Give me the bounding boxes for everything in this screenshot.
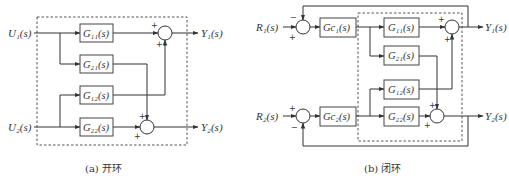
open-loop-diagram: U₁(s) U₂(s) G₁₁(s) G₂₁(s) G₁₂(s) G₂₂(s) … — [8, 17, 223, 174]
input-r1-label: R₁(s) — [255, 21, 278, 34]
error-sum-2 — [296, 109, 310, 123]
input-r2-label: R₂(s) — [255, 110, 278, 123]
sum2-sign-left: + — [424, 121, 431, 130]
caption-closed-loop: (b) 闭环 — [364, 162, 401, 174]
error-sum-1 — [296, 20, 310, 34]
sum1-sign-top: + — [438, 15, 445, 24]
sum-junction-y2 — [140, 120, 154, 134]
block-g21-label: G₂₁(s) — [388, 50, 414, 62]
output-y2-label: Y₂(s) — [485, 110, 507, 123]
sum-junction-y2 — [430, 109, 444, 123]
err1-sign-bottom: + — [289, 33, 296, 42]
output-y1-label: Y₁(s) — [485, 21, 507, 34]
input-u2-label: U₂(s) — [8, 121, 32, 134]
caption-open-loop: (a) 开环 — [85, 163, 122, 174]
sum2-sign-top: + — [139, 112, 146, 121]
controller-gc1-label: Gc₁(s) — [323, 22, 350, 34]
block-g11-label: G₁₁(s) — [388, 22, 414, 34]
err2-sign-bottom: − — [291, 123, 298, 132]
block-g12-label: G₁₂(s) — [83, 90, 109, 102]
sum-junction-y1 — [158, 26, 172, 40]
input-u1-label: U₁(s) — [8, 27, 32, 40]
controller-gc2-label: Gc₂(s) — [323, 111, 350, 123]
err1-sign-top: − — [290, 13, 297, 22]
sum1-sign-bottom: + — [444, 35, 451, 44]
sum2-sign-top: + — [429, 101, 436, 110]
block-g21-label: G₂₁(s) — [83, 59, 109, 71]
block-g12-label: G₁₂(s) — [388, 84, 414, 96]
sum1-sign-bottom: + — [156, 40, 163, 49]
sum2-sign-left: + — [134, 132, 141, 141]
err2-sign-top: + — [289, 104, 296, 113]
output-y2-label: Y₂(s) — [201, 121, 223, 134]
closed-loop-diagram: R₁(s) R₂(s) − + + − Gc₁(s) Gc₂(s) G₁₁(s)… — [255, 6, 507, 174]
sum-junction-y1 — [445, 20, 459, 34]
block-g22-label: G₂₂(s) — [83, 122, 109, 134]
block-g22-label: G₂₂(s) — [388, 111, 414, 123]
output-y1-label: Y₁(s) — [201, 27, 223, 40]
sum1-sign-top: + — [151, 21, 158, 30]
block-g11-label: G₁₁(s) — [83, 28, 109, 40]
